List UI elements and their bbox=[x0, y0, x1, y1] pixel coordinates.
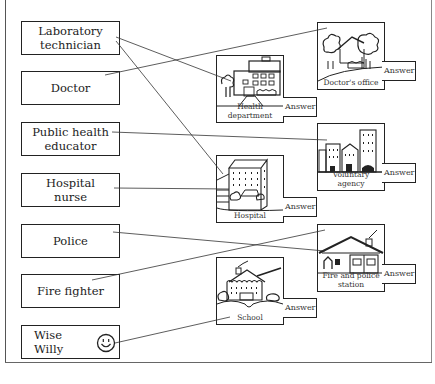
role-box-public-health-educator[interactable]: Public health educator bbox=[21, 122, 120, 156]
role-label: Doctor bbox=[51, 81, 91, 95]
place-picture-health-department[interactable]: Health department bbox=[216, 55, 284, 123]
place-caption: Health department bbox=[217, 102, 283, 120]
smiley-face-icon bbox=[96, 333, 116, 353]
connection-line-public-health-educator-to-voluntary-agency[interactable] bbox=[112, 132, 327, 140]
connection-line-lab-tech-to-health-department[interactable] bbox=[116, 37, 231, 81]
answer-field-voluntary-agency[interactable]: Answer bbox=[382, 163, 416, 183]
role-box-wise-willy[interactable]: Wise Willy bbox=[21, 325, 120, 359]
role-box-police[interactable]: Police bbox=[21, 224, 120, 258]
connection-line-police-to-fire-and-police-station[interactable] bbox=[113, 232, 325, 251]
role-label: Fire fighter bbox=[37, 284, 104, 298]
role-box-fire-fighter[interactable]: Fire fighter bbox=[21, 274, 120, 308]
answer-field-health-department[interactable]: Answer bbox=[283, 97, 317, 117]
place-caption: Doctor's office bbox=[318, 78, 384, 87]
place-picture-hospital[interactable]: Hospital bbox=[216, 155, 284, 223]
place-picture-fire-and-police-station[interactable]: Fire and police station bbox=[317, 224, 385, 292]
place-caption: School bbox=[217, 313, 283, 322]
role-label: Police bbox=[53, 234, 88, 248]
answer-field-school[interactable]: Answer bbox=[283, 298, 317, 318]
place-picture-voluntary-agency[interactable]: Voluntary agency bbox=[317, 123, 385, 191]
role-box-doctor[interactable]: Doctor bbox=[21, 71, 120, 105]
place-caption: Hospital bbox=[217, 211, 283, 220]
connection-line-hospital-nurse-to-hospital[interactable] bbox=[114, 188, 229, 189]
place-picture-school[interactable]: School bbox=[216, 257, 284, 325]
frame-left-border bbox=[5, 0, 6, 363]
connection-line-fire-fighter-to-fire-and-police-station[interactable] bbox=[92, 230, 325, 280]
connection-line-lab-tech-to-hospital[interactable] bbox=[116, 41, 223, 174]
role-box-hospital-nurse[interactable]: Hospital nurse bbox=[21, 173, 120, 207]
connection-line-wise-willy-to-school[interactable] bbox=[115, 317, 230, 343]
role-box-laboratory-technician[interactable]: Laboratory technician bbox=[21, 21, 120, 55]
role-label: Public health educator bbox=[32, 125, 109, 153]
role-label: Wise Willy bbox=[34, 328, 63, 356]
frame-right-border bbox=[431, 0, 432, 363]
answer-field-fire-and-police-station[interactable]: Answer bbox=[382, 264, 416, 284]
answer-field-doctors-office[interactable]: Answer bbox=[382, 61, 416, 81]
answer-field-hospital[interactable]: Answer bbox=[283, 197, 317, 217]
frame-bottom-border bbox=[5, 362, 432, 363]
place-caption: Fire and police station bbox=[318, 271, 384, 289]
role-label: Hospital nurse bbox=[46, 176, 95, 204]
place-picture-doctors-office[interactable]: Doctor's office bbox=[317, 22, 385, 90]
role-label: Laboratory technician bbox=[38, 24, 103, 52]
place-caption: Voluntary agency bbox=[318, 170, 384, 188]
